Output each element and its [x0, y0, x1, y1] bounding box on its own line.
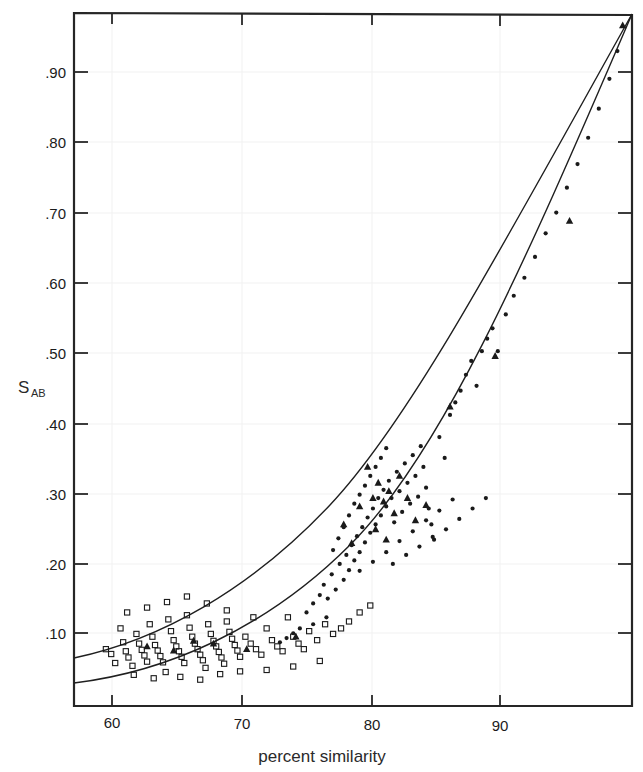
data-point — [232, 642, 237, 647]
data-point — [437, 435, 441, 439]
data-point — [206, 622, 211, 627]
data-point — [522, 276, 526, 280]
data-point — [358, 493, 362, 497]
data-point — [448, 413, 452, 417]
data-point — [575, 162, 579, 166]
data-point — [376, 496, 380, 500]
data-point — [363, 484, 367, 488]
data-point — [285, 615, 290, 620]
data-point — [164, 599, 169, 604]
x-tick-labels: 60 70 80 90 — [104, 714, 509, 734]
data-point — [118, 626, 123, 631]
data-point — [375, 479, 382, 486]
data-point — [544, 231, 548, 235]
data-point — [123, 649, 128, 654]
gridlines — [74, 13, 632, 706]
y-tick-label: .60 — [45, 275, 66, 292]
y-axis-title-subscript: AB — [31, 387, 46, 399]
data-point — [224, 608, 229, 613]
x-tick-label: 60 — [104, 714, 121, 731]
data-point — [259, 652, 264, 657]
data-point — [384, 504, 388, 508]
data-point — [397, 489, 401, 493]
data-point — [182, 660, 187, 665]
data-point — [405, 481, 409, 485]
scatter-plot: .90 .80 .70 .60 .50 .40 .30 .20 .10 60 7… — [0, 0, 643, 772]
data-point — [380, 498, 387, 505]
data-point — [385, 487, 392, 494]
data-point — [109, 651, 114, 656]
y-tick-label: .10 — [45, 625, 66, 642]
data-point — [369, 494, 376, 501]
data-point — [597, 107, 601, 111]
data-point — [400, 510, 404, 514]
data-point — [139, 647, 144, 652]
data-point — [413, 474, 417, 478]
data-point — [275, 644, 280, 649]
data-point — [126, 655, 131, 660]
data-point — [230, 636, 235, 641]
data-point — [235, 648, 240, 653]
data-point — [459, 389, 463, 393]
data-point — [178, 674, 183, 679]
data-point — [358, 550, 362, 554]
data-point — [340, 520, 347, 527]
data-point — [357, 610, 362, 615]
data-point — [291, 664, 296, 669]
data-point — [147, 622, 152, 627]
data-point — [404, 553, 408, 557]
data-point — [224, 619, 229, 624]
data-point — [304, 610, 308, 614]
data-point — [533, 255, 537, 259]
data-point — [416, 495, 420, 499]
data-point — [453, 400, 457, 404]
data-point — [451, 497, 455, 501]
y-tick-label: .30 — [45, 486, 66, 503]
y-axis-title: S AB — [18, 378, 46, 399]
data-point — [326, 596, 330, 600]
data-point — [291, 631, 295, 635]
data-point — [356, 502, 363, 509]
data-point — [429, 522, 433, 526]
y-tick-label: .80 — [45, 134, 66, 151]
data-point — [474, 384, 478, 388]
data-point — [200, 658, 205, 663]
data-point — [113, 660, 118, 665]
data-point — [253, 647, 258, 652]
figure-container: .90 .80 .70 .60 .50 .40 .30 .20 .10 60 7… — [0, 0, 643, 772]
data-point — [431, 535, 435, 539]
data-point — [125, 610, 130, 615]
data-point — [437, 508, 441, 512]
data-point — [278, 640, 282, 644]
y-tick-label: .90 — [45, 64, 66, 81]
data-point — [323, 622, 328, 627]
data-point — [496, 349, 500, 353]
data-point — [352, 502, 356, 506]
data-point — [134, 631, 139, 636]
data-point — [171, 638, 176, 643]
data-point — [397, 539, 401, 543]
data-point — [352, 558, 356, 562]
data-point — [219, 655, 224, 660]
data-point — [130, 663, 135, 668]
data-point — [408, 502, 412, 506]
data-point — [163, 669, 168, 674]
data-point — [391, 509, 398, 516]
data-point — [347, 513, 351, 517]
lower-fitted-curve — [74, 14, 632, 683]
data-point — [480, 349, 484, 353]
data-point — [404, 494, 411, 501]
data-point — [143, 642, 150, 649]
y-tick-labels: .90 .80 .70 .60 .50 .40 .30 .20 .10 — [45, 64, 66, 642]
data-point — [607, 77, 611, 81]
data-point — [298, 626, 302, 630]
data-point — [144, 659, 149, 664]
data-point — [366, 515, 370, 519]
data-point — [422, 501, 429, 508]
data-point — [334, 587, 338, 591]
data-point — [411, 453, 415, 457]
data-point — [379, 513, 383, 517]
data-point — [360, 525, 364, 529]
data-point — [284, 636, 288, 640]
fitted-curves — [74, 14, 632, 683]
